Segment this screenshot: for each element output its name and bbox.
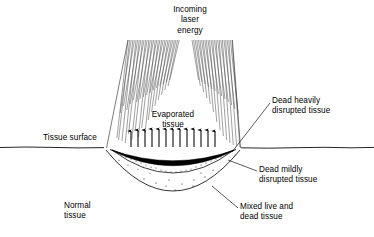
dead-mildly-disrupted-tissue-label: Dead mildly disrupted tissue: [259, 165, 357, 186]
leader-dead-mildly-disrupted: [228, 160, 257, 171]
incoming-laser-energy-label: Incoming laser energy: [150, 5, 230, 36]
dead-heavily-disrupted-tissue-label: Dead heavily disrupted tissue: [272, 96, 370, 117]
evaporated-tissue-label: Evaporated tissue: [137, 110, 209, 131]
leader-mixed-live-dead: [212, 186, 238, 208]
laser-tissue-ablation-diagram: Incoming laser energy Evaporated tissue …: [0, 0, 374, 237]
evaporated-tissue-arrows: [131, 129, 215, 147]
tissue-surface-label: Tissue surface: [30, 133, 110, 143]
normal-tissue-label: Normal tissue: [64, 201, 118, 222]
laser-beam-right-curtain: [192, 40, 240, 147]
mixed-live-dead-tissue-label: Mixed live and dead tissue: [240, 202, 344, 223]
tissue-surface-line: [0, 147, 374, 148]
